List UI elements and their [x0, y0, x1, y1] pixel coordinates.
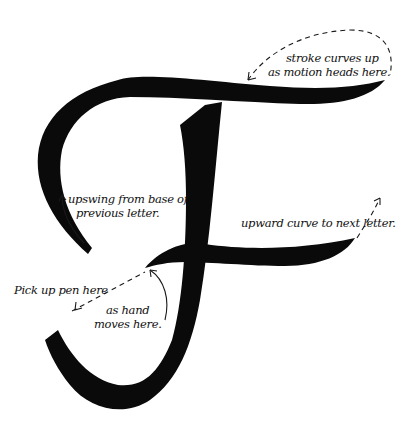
note-as-hand-line1: as hand — [94, 303, 162, 317]
note-upward-curve-line1: upward curve to next letter. — [241, 216, 395, 230]
note-upswing: upswing from base of previous letter. — [68, 192, 188, 220]
note-upswing-line2: previous letter. — [68, 206, 188, 220]
note-as-hand: as hand moves here. — [94, 303, 162, 331]
note-stroke-curves-line2: as motion heads here. — [268, 65, 390, 79]
note-upward-curve: upward curve to next letter. — [241, 216, 395, 230]
crossbar-stroke — [145, 238, 355, 268]
note-pick-up-pen: Pick up pen here — [14, 283, 108, 297]
note-pick-up-pen-line1: Pick up pen here — [14, 283, 108, 297]
note-stroke-curves: stroke curves up as motion heads here. — [268, 51, 390, 79]
note-upswing-line1: upswing from base of — [68, 192, 188, 206]
note-stroke-curves-line1: stroke curves up — [268, 51, 390, 65]
note-as-hand-line2: moves here. — [94, 317, 162, 331]
